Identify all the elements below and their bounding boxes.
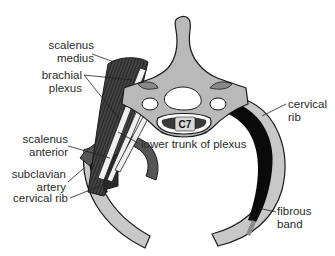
label-line: scalenus xyxy=(8,133,68,146)
label-cervical-rib-right: cervical rib xyxy=(288,98,327,124)
label-line: brachial xyxy=(30,69,82,82)
label-subclavian-artery: subclavian artery xyxy=(2,168,66,194)
label-lower-trunk: lower trunk of plexus xyxy=(141,138,246,151)
label-line: band xyxy=(277,218,312,231)
label-line: lower trunk of plexus xyxy=(141,138,246,151)
label-fibrous-band: fibrous band xyxy=(277,205,312,231)
label-scalenus-anterior: scalenus anterior xyxy=(8,133,68,159)
label-scalenus-medius: scalenus medius xyxy=(34,39,94,65)
right-first-rib xyxy=(212,100,285,246)
right-transverse-foramen xyxy=(210,98,226,110)
label-line: anterior xyxy=(8,146,68,159)
label-line: fibrous xyxy=(277,205,312,218)
label-line: subclavian xyxy=(2,168,66,181)
vertebra-c7-label: C7 xyxy=(176,118,194,131)
vertebral-foramen xyxy=(164,87,201,110)
label-line: cervical rib xyxy=(2,192,68,205)
label-cervical-rib-left: cervical rib xyxy=(2,192,68,205)
label-brachial-plexus: brachial plexus xyxy=(30,69,82,95)
label-line: medius xyxy=(34,52,94,65)
label-line: rib xyxy=(288,111,327,124)
label-line: scalenus xyxy=(34,39,94,52)
left-transverse-foramen xyxy=(142,98,158,110)
label-line: cervical xyxy=(288,98,327,111)
label-line: plexus xyxy=(30,82,82,95)
